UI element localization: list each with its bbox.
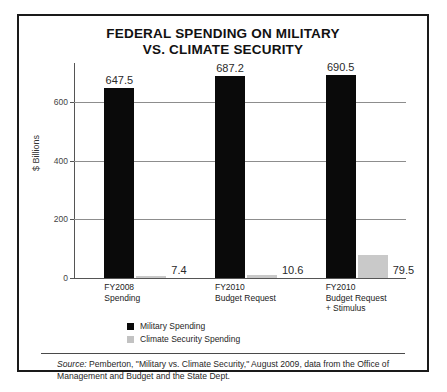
category-label-line-1: FY2010: [326, 282, 387, 293]
bar-climate[interactable]: 7.4: [136, 276, 166, 278]
category-label-line-1: FY2008: [104, 282, 140, 293]
bar-value-climate: 7.4: [171, 264, 186, 276]
bar-value-climate: 10.6: [282, 264, 303, 276]
category-label-line-1: FY2010: [215, 282, 276, 293]
chart-title-line-1: FEDERAL SPENDING ON MILITARY: [19, 26, 427, 42]
bar-military[interactable]: 647.5: [104, 88, 134, 278]
category-label-line-2: Spending: [104, 293, 140, 304]
bar-value-military: 647.5: [106, 74, 134, 86]
category-label-line-3: + Stimulus: [326, 303, 387, 314]
y-tick-mark: [70, 278, 74, 279]
bar-military[interactable]: 690.5: [326, 75, 356, 278]
category-label: FY2010Budget Request+ Stimulus: [326, 282, 387, 314]
bar-group: 690.579.5: [326, 63, 388, 278]
bar-group: 687.210.6: [215, 63, 277, 278]
bar-value-military: 687.2: [216, 62, 244, 74]
category-label: FY2010Budget Request: [215, 282, 276, 303]
bar-value-military: 690.5: [327, 61, 355, 73]
category-label: FY2008Spending: [104, 282, 140, 303]
plot-area: 0200400600 647.57.4687.210.6690.579.5 FY…: [74, 63, 406, 279]
legend-label-military: Military Spending: [140, 321, 205, 331]
bar-climate[interactable]: 79.5: [358, 255, 388, 278]
legend-item-military: Military Spending: [127, 321, 240, 331]
bar-climate[interactable]: 10.6: [247, 275, 277, 278]
legend-label-climate: Climate Security Spending: [140, 334, 240, 344]
y-axis-label: $ Billions: [31, 135, 41, 171]
chart-figure: FEDERAL SPENDING ON MILITARY VS. CLIMATE…: [17, 14, 429, 372]
chart-title-line-2: VS. CLIMATE SECURITY: [19, 42, 427, 58]
source-prefix: Source:: [57, 359, 87, 369]
bar-value-climate: 79.5: [393, 264, 414, 276]
chart-title: FEDERAL SPENDING ON MILITARY VS. CLIMATE…: [19, 26, 427, 58]
category-label-line-2: Budget Request: [215, 293, 276, 304]
legend-swatch-climate-icon: [127, 336, 134, 343]
bar-military[interactable]: 687.2: [215, 76, 245, 278]
chart-legend: Military Spending Climate Security Spend…: [127, 321, 240, 347]
y-tick-mark: [70, 161, 74, 162]
source-note: Source: Pemberton, "Military vs. Climate…: [57, 359, 397, 382]
y-tick-mark: [70, 219, 74, 220]
y-tick-label: 200: [54, 214, 68, 224]
source-text: Pemberton, "Military vs. Climate Securit…: [57, 359, 389, 381]
y-tick-mark: [70, 102, 74, 103]
y-axis-line: [74, 63, 75, 279]
category-label-line-2: Budget Request: [326, 293, 387, 304]
legend-swatch-military-icon: [127, 323, 134, 330]
y-tick-label: 600: [54, 97, 68, 107]
legend-item-climate: Climate Security Spending: [127, 334, 240, 344]
y-tick-label: 0: [63, 273, 68, 283]
bar-group: 647.57.4: [104, 63, 166, 278]
source-divider: [41, 353, 405, 354]
x-axis-line: [74, 278, 406, 279]
y-tick-label: 400: [54, 156, 68, 166]
